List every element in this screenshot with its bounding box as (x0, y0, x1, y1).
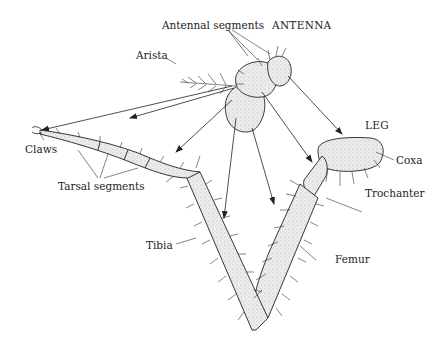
heading-antenna: ANTENNA (272, 20, 332, 31)
arrow-to-tibia (224, 118, 236, 218)
arrow-to-coxa (288, 76, 342, 134)
arrow-to-claws (42, 86, 232, 130)
leg-drawing (40, 130, 383, 330)
arrow-to-trochanter (262, 92, 312, 162)
label-arista: Arista (136, 50, 168, 61)
diagram-illustration (0, 0, 438, 344)
antenna-leg-diagram: Antennal segments ANTENNA Arista Claws T… (0, 0, 438, 344)
coxa-segment (318, 138, 383, 172)
label-claws: Claws (25, 144, 57, 155)
label-femur: Femur (335, 254, 370, 265)
antenna-drawing (225, 56, 291, 132)
arrow-to-tarsus (130, 88, 234, 118)
label-coxa: Coxa (396, 155, 423, 166)
label-trochanter: Trochanter (365, 188, 424, 199)
label-tibia: Tibia (146, 240, 173, 251)
label-antennal-segments: Antennal segments (162, 20, 264, 31)
arrow-to-tarsus-2 (176, 100, 232, 152)
heading-leg: LEG (365, 120, 389, 131)
tarsal-segments (40, 130, 200, 178)
arrow-to-femur (252, 128, 274, 204)
label-tarsal-segments: Tarsal segments (58, 181, 145, 192)
